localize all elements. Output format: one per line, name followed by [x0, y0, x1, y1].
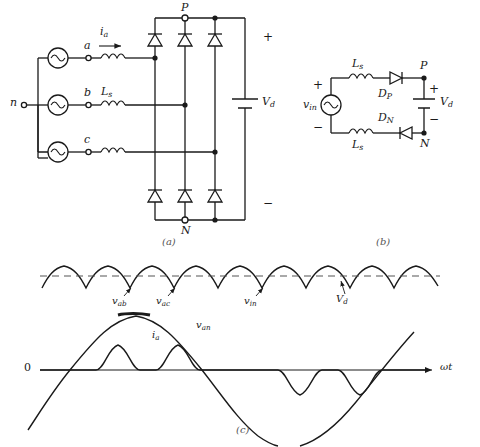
iaw-sub: a: [155, 333, 159, 342]
label-vd-a: Vd: [262, 96, 275, 109]
vd-base: V: [262, 95, 270, 108]
dn-sub: N: [387, 116, 394, 125]
label-ls-b-bottom: Ls: [352, 139, 363, 152]
label-vin-b: vin: [303, 99, 317, 112]
label-van: van: [196, 320, 211, 331]
dp-base: D: [378, 87, 387, 100]
diode-d4: [148, 190, 162, 202]
terminal-n: [182, 217, 188, 223]
label-omega-t: ωt: [440, 362, 452, 372]
diode-d5: [208, 34, 222, 46]
polarity-plus-b-src: +: [313, 78, 323, 92]
circuit-a: [21, 15, 258, 223]
van-sub: an: [202, 323, 211, 332]
label-vac: vac: [156, 296, 170, 307]
polarity-minus-a: −: [263, 196, 273, 210]
caption-b: (b): [376, 236, 390, 247]
dp-sub: P: [387, 92, 392, 101]
van-crest-highlight: [118, 314, 150, 316]
inductor-b-bottom: [331, 129, 390, 133]
figure-diode-rectifier: [0, 0, 480, 447]
label-phase-a: a: [84, 40, 91, 51]
inductor-phase-a: [91, 54, 155, 58]
diode-d6: [178, 190, 192, 202]
label-vd-b: Vd: [440, 96, 453, 109]
polarity-plus-b-dc: +: [429, 82, 439, 96]
vdw-sub: d: [343, 297, 348, 306]
neutral-bus: [21, 58, 48, 158]
neutral-c-leg: [38, 105, 48, 152]
label-diode-dp: DP: [378, 88, 392, 101]
label-vab: vab: [112, 296, 127, 307]
van-sine: [28, 316, 414, 446]
vinw-sub: in: [250, 299, 257, 308]
label-node-p-a: P: [181, 2, 188, 13]
ac-source-vin: [321, 78, 341, 133]
diode-d1: [148, 34, 162, 46]
polarity-minus-b-dc: −: [429, 112, 439, 126]
inductor-b-top: [331, 74, 390, 78]
polarity-plus-a: +: [263, 30, 273, 44]
diode-dn: [390, 127, 424, 139]
waveform-panel: [28, 266, 440, 446]
diode-dp: [390, 72, 424, 84]
vin-sub: in: [309, 103, 317, 112]
dc-source-vd: [232, 82, 258, 128]
caption-c: (c): [236, 424, 249, 435]
ia-sub: a: [104, 30, 109, 39]
vdb-sub: d: [448, 100, 453, 109]
circuit-b: [321, 72, 435, 139]
label-vd-wave: Vd: [336, 294, 348, 305]
label-phase-b: b: [84, 87, 91, 98]
label-zero: 0: [24, 362, 31, 373]
annotation-pointers: [124, 281, 345, 296]
dn-base: D: [378, 111, 387, 124]
vac-sub: ac: [162, 299, 170, 308]
label-ls-b-top: Ls: [352, 58, 363, 71]
label-node-n-b: N: [420, 138, 430, 149]
label-phase-c: c: [84, 134, 90, 145]
lsb-bot-sub: s: [359, 143, 363, 152]
label-vin-wave: vin: [244, 296, 257, 307]
label-node-n-a: N: [181, 225, 191, 236]
diode-d3: [178, 34, 192, 46]
label-neutral: n: [10, 97, 17, 108]
lsb-top-sub: s: [359, 62, 363, 71]
label-inductor-ls-a: Ls: [101, 86, 112, 99]
label-ia-wave: ia: [152, 330, 160, 341]
label-diode-dn: DN: [378, 112, 394, 125]
vab-sub: ab: [118, 299, 127, 308]
diode-d2: [208, 190, 222, 202]
label-node-p-b: P: [420, 60, 427, 71]
ls-sub: s: [108, 90, 112, 99]
ripple-waveform: [42, 266, 438, 288]
inductor-phase-b: [91, 101, 185, 105]
label-current-ia: ia: [100, 26, 108, 39]
vd-sub: d: [270, 100, 275, 109]
terminal-p: [182, 15, 188, 21]
inductor-phase-c: [91, 148, 215, 152]
vdb-base: V: [440, 95, 448, 108]
dc-bus-rails: [155, 18, 245, 220]
polarity-minus-b-src: −: [313, 120, 323, 134]
caption-a: (a): [162, 236, 176, 247]
